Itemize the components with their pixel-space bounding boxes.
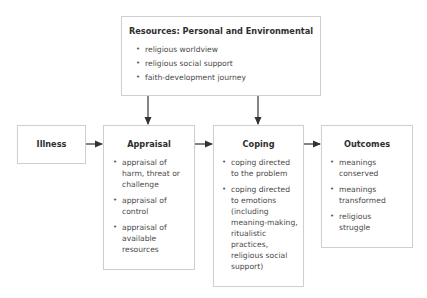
- list-item: coping directed to the problem: [221, 157, 300, 179]
- list-item: meanings conserved: [329, 157, 394, 179]
- list-item: religious struggle: [329, 211, 394, 233]
- resources-box: Resources: Personal and Environmental re…: [121, 16, 321, 96]
- list-item: appraisal of harm, threat or challenge: [112, 157, 190, 190]
- appraisal-box: Appraisal appraisal of harm, threat or c…: [103, 125, 195, 270]
- list-item: coping directed to emotions (including m…: [221, 184, 300, 272]
- list-item: meanings transformed: [329, 184, 394, 206]
- list-item: appraisal of control: [112, 195, 190, 217]
- coping-box: Coping coping directed to the problem co…: [213, 125, 304, 287]
- outcomes-box: Outcomes meanings conserved meanings tra…: [321, 125, 413, 248]
- list-item: faith-development journey: [135, 72, 320, 83]
- outcomes-title: Outcomes: [322, 139, 412, 149]
- illness-box: Illness: [17, 125, 86, 164]
- appraisal-title: Appraisal: [104, 139, 194, 149]
- coping-title: Coping: [214, 139, 303, 149]
- illness-title: Illness: [18, 139, 85, 149]
- list-item: religious worldview: [135, 44, 320, 55]
- list-item: appraisal of available resources: [112, 222, 190, 255]
- resources-title: Resources: Personal and Environmental: [122, 26, 320, 36]
- list-item: religious social support: [135, 58, 320, 69]
